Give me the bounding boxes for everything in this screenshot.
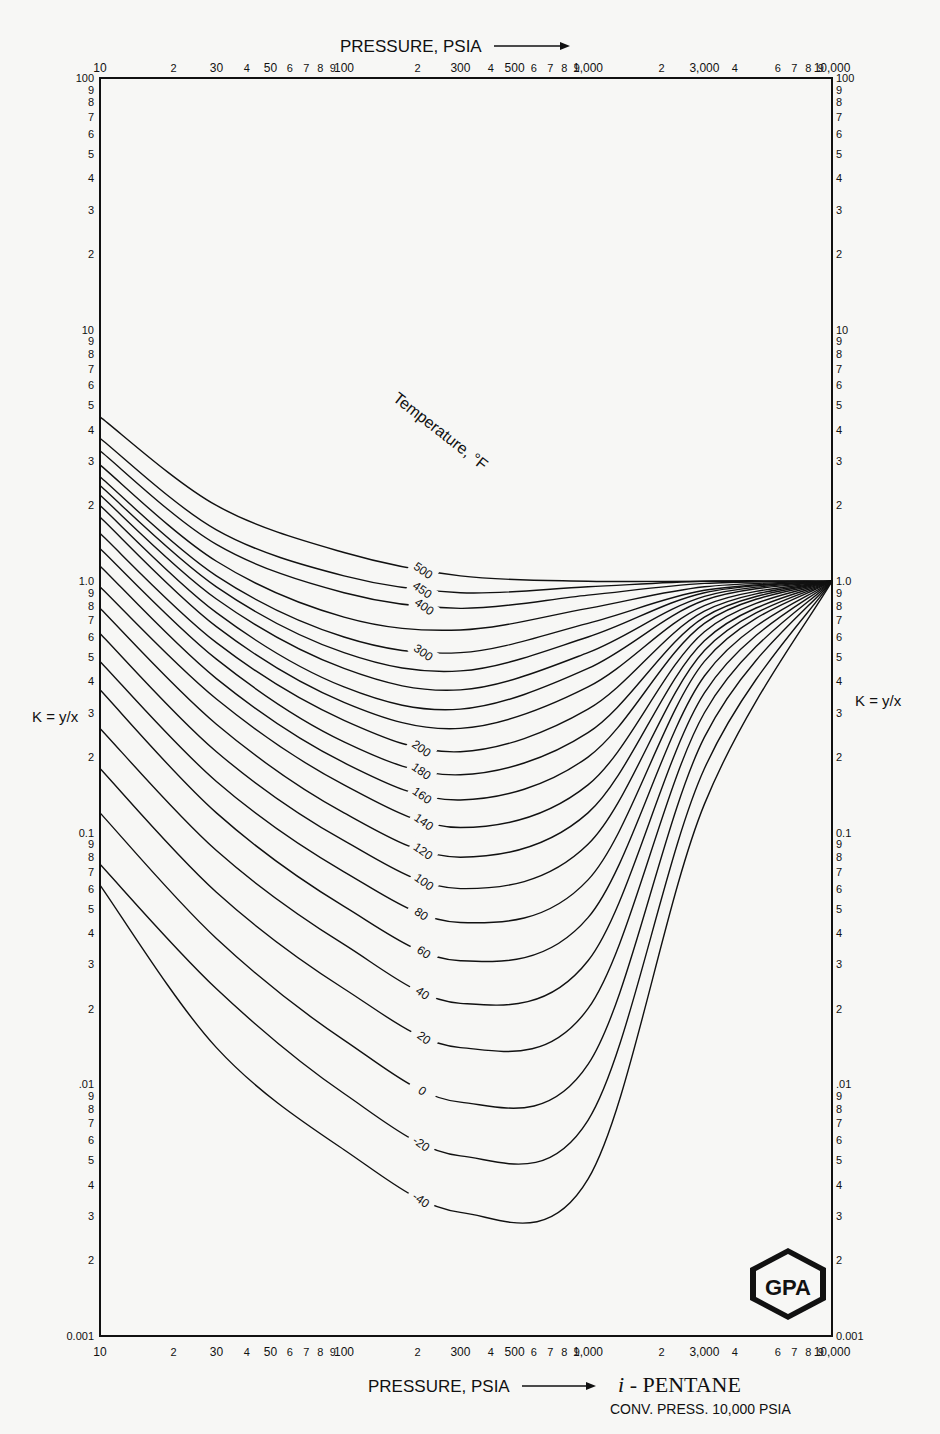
x-tick-label: 6 — [775, 1346, 781, 1358]
x-tick-label: 2 — [414, 62, 420, 74]
y-tick-label: 3 — [836, 204, 842, 216]
x-tick-label: 6 — [531, 1346, 537, 1358]
y-tick-label: 7 — [836, 363, 842, 375]
compound-name: i - PENTANE — [618, 1372, 741, 1397]
x-tick-label: 2 — [414, 1346, 420, 1358]
y-tick-label: 5 — [88, 148, 94, 160]
temperature-curve-labels: 500450400300200180160140120100806040200-… — [405, 556, 440, 1215]
y-tick-label: 6 — [836, 379, 842, 391]
svg-text:PRESSURE, PSIA: PRESSURE, PSIA — [340, 37, 482, 56]
y-tick-label: 4 — [836, 675, 842, 687]
y-tick-label: 6 — [836, 631, 842, 643]
y-tick-label: 3 — [836, 707, 842, 719]
y-tick-label: 7 — [88, 1117, 94, 1129]
y-tick-label: 4 — [88, 1179, 94, 1191]
temperature-title: Temperature, °F — [390, 389, 491, 473]
y-tick-label: 8 — [88, 851, 94, 863]
y-tick-label: 6 — [836, 128, 842, 140]
y-tick-label: 2 — [88, 1003, 94, 1015]
y-tick-label: 6 — [88, 883, 94, 895]
y-tick-label: 3 — [836, 958, 842, 970]
x-tick-label: 7 — [547, 1346, 553, 1358]
x-tick-label: 500 — [505, 61, 525, 75]
x-tick-label: 8 — [317, 62, 323, 74]
x-tick-label: 7 — [303, 1346, 309, 1358]
y-tick-label: 5 — [836, 1154, 842, 1166]
x-tick-label: 10 — [93, 1345, 107, 1359]
y-tick-label: 8 — [88, 96, 94, 108]
temperature-curve--40 — [100, 581, 832, 1223]
x-tick-label: 3,000 — [689, 1345, 719, 1359]
x-tick-label: 30 — [210, 1345, 224, 1359]
x-tick-label: 4 — [732, 62, 738, 74]
y-tick-label: 4 — [88, 424, 94, 436]
y-tick-label: 3 — [836, 1210, 842, 1222]
temperature-curve-140 — [100, 581, 832, 827]
x-tick-label: 6 — [287, 62, 293, 74]
y-tick-label: 7 — [836, 1117, 842, 1129]
temperature-curve-120 — [100, 581, 832, 857]
k-label-right: K = y/x — [855, 692, 902, 709]
x-tick-label: 1,000 — [573, 61, 603, 75]
x-tick-label: 8 — [561, 62, 567, 74]
x-tick-label: 4 — [488, 1346, 494, 1358]
x-tick-label: 3,000 — [689, 61, 719, 75]
arrow-right-icon — [586, 1382, 596, 1390]
y-tick-label: 4 — [836, 927, 842, 939]
x-tick-label: 8 — [805, 1346, 811, 1358]
y-tick-label: 6 — [836, 883, 842, 895]
y-tick-label: 7 — [88, 866, 94, 878]
y-tick-label: 4 — [88, 675, 94, 687]
y-tick-label: 2 — [836, 248, 842, 260]
y-tick-label: 9 — [88, 84, 94, 96]
temperature-curve-40 — [100, 581, 832, 1005]
k-value-chart: PRESSURE, PSIA PRESSURE, PSIA 1023045067… — [0, 0, 940, 1434]
y-tick-label: .01 — [836, 1078, 851, 1090]
y-tick-label: 3 — [88, 707, 94, 719]
y-tick-label: 8 — [836, 96, 842, 108]
y-tick-label: 10 — [836, 324, 848, 336]
y-tick-label: 3 — [88, 204, 94, 216]
x-tick-label: 4 — [488, 62, 494, 74]
x-tick-label: 6 — [531, 62, 537, 74]
x-tick-label: 7 — [303, 62, 309, 74]
y-tick-label: 3 — [836, 455, 842, 467]
y-tick-label: 9 — [836, 587, 842, 599]
y-tick-label: 0.1 — [836, 827, 851, 839]
y-tick-label: 0.001 — [836, 1330, 864, 1342]
y-tick-label: 1.0 — [836, 575, 851, 587]
x-tick-label: 7 — [791, 1346, 797, 1358]
y-tick-label: 2 — [836, 1254, 842, 1266]
y-tick-label: 4 — [88, 927, 94, 939]
x-ticks-bottom: 1023045067891002300450067891,00023,00046… — [93, 1345, 850, 1359]
y-tick-label: 5 — [88, 1154, 94, 1166]
x-tick-label: 7 — [791, 62, 797, 74]
y-tick-label: 100 — [836, 72, 854, 84]
y-tick-label: 6 — [88, 128, 94, 140]
y-tick-label: 9 — [836, 1090, 842, 1102]
y-tick-label: 6 — [836, 1134, 842, 1146]
x-tick-label: 50 — [264, 1345, 278, 1359]
x-tick-label: 4 — [732, 1346, 738, 1358]
x-tick-label: 8 — [805, 62, 811, 74]
y-tick-label: 0.001 — [66, 1330, 94, 1342]
y-tick-label: 2 — [88, 1254, 94, 1266]
y-tick-label: 5 — [88, 651, 94, 663]
y-tick-label: .01 — [79, 1078, 94, 1090]
y-tick-label: 8 — [88, 348, 94, 360]
y-tick-label: 7 — [88, 111, 94, 123]
x-ticks-top: 1023045067891002300450067891,00023,00046… — [93, 61, 850, 75]
y-tick-label: 8 — [836, 600, 842, 612]
y-tick-label: 5 — [836, 399, 842, 411]
x-tick-label: 100 — [334, 1345, 354, 1359]
x-tick-label: 500 — [505, 1345, 525, 1359]
x-tick-label: 100 — [334, 61, 354, 75]
x-tick-label: 2 — [170, 1346, 176, 1358]
y-tick-label: 2 — [836, 1003, 842, 1015]
y-tick-label: 5 — [88, 903, 94, 915]
y-tick-label: 5 — [836, 903, 842, 915]
x-tick-label: 2 — [658, 1346, 664, 1358]
y-tick-label: 9 — [836, 84, 842, 96]
x-tick-label: 6 — [775, 62, 781, 74]
y-tick-label: 2 — [88, 248, 94, 260]
